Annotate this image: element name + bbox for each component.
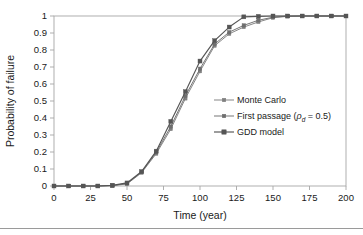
legend-label-1: Monte Carlo bbox=[237, 95, 286, 105]
x-tick-label: 25 bbox=[85, 192, 96, 203]
series-marker bbox=[329, 14, 333, 18]
series-line bbox=[54, 16, 346, 186]
x-tick-label: 100 bbox=[192, 192, 208, 203]
series-line bbox=[54, 16, 346, 186]
data-series-layer bbox=[52, 14, 348, 188]
legend-label-2: First passage (ρd = 0.5) bbox=[237, 111, 331, 123]
x-tick-label: 125 bbox=[229, 192, 245, 203]
series-marker bbox=[257, 19, 260, 22]
series-marker bbox=[344, 14, 348, 18]
series-marker bbox=[154, 149, 158, 153]
plot-frame bbox=[54, 16, 346, 186]
series-marker bbox=[228, 30, 231, 33]
y-tick-label: 0.2 bbox=[34, 146, 47, 157]
series-marker bbox=[256, 14, 260, 18]
series-marker bbox=[213, 39, 217, 43]
series-marker bbox=[125, 181, 129, 185]
series-marker bbox=[242, 15, 246, 19]
y-tick-label: 0.1 bbox=[34, 163, 47, 174]
y-tick-label: 0.8 bbox=[34, 44, 47, 55]
series-marker bbox=[242, 24, 245, 27]
series-marker bbox=[52, 184, 56, 188]
series-marker bbox=[140, 170, 144, 174]
y-tick-label: 0.3 bbox=[34, 129, 47, 140]
x-tick-label: 200 bbox=[338, 192, 354, 203]
x-axis-ticks: 0255075100125150175200 bbox=[51, 186, 354, 203]
series-marker bbox=[286, 14, 290, 18]
x-tick-label: 0 bbox=[51, 192, 56, 203]
chart-figure: 00.10.20.30.40.50.60.70.80.91 0255075100… bbox=[0, 0, 363, 235]
probability-of-failure-chart: 00.10.20.30.40.50.60.70.80.91 0255075100… bbox=[0, 0, 363, 226]
series-marker bbox=[169, 119, 173, 123]
series-marker bbox=[198, 67, 201, 70]
series-marker bbox=[227, 25, 231, 29]
series-marker bbox=[81, 184, 85, 188]
y-tick-label: 0.7 bbox=[34, 61, 47, 72]
series-line bbox=[54, 16, 346, 186]
series-marker bbox=[183, 90, 187, 94]
series-marker bbox=[110, 183, 114, 187]
chart-legend: Monte CarloFirst passage (ρd = 0.5)GDD m… bbox=[214, 95, 331, 137]
legend-label-3: GDD model bbox=[237, 127, 284, 137]
y-axis-ticks: 00.10.20.30.40.50.60.70.80.91 bbox=[34, 10, 54, 191]
y-tick-label: 0.5 bbox=[34, 95, 47, 106]
series-marker bbox=[300, 14, 304, 18]
series-marker bbox=[315, 14, 319, 18]
x-tick-label: 50 bbox=[122, 192, 133, 203]
y-tick-label: 1 bbox=[42, 10, 47, 21]
y-tick-label: 0.4 bbox=[34, 112, 47, 123]
series-3 bbox=[52, 14, 348, 188]
series-1 bbox=[52, 14, 347, 187]
x-tick-label: 175 bbox=[302, 192, 318, 203]
y-tick-label: 0.6 bbox=[34, 78, 47, 89]
footer-divider bbox=[0, 228, 363, 229]
series-marker bbox=[198, 59, 202, 63]
series-marker bbox=[96, 184, 100, 188]
x-axis-title: Time (year) bbox=[173, 209, 226, 221]
series-2 bbox=[52, 14, 347, 187]
legend-marker bbox=[222, 130, 226, 134]
series-marker bbox=[169, 125, 172, 128]
x-tick-label: 150 bbox=[265, 192, 281, 203]
series-marker bbox=[271, 14, 275, 18]
y-tick-label: 0.9 bbox=[34, 27, 47, 38]
y-axis-title: Probability of failure bbox=[4, 55, 16, 147]
x-tick-label: 75 bbox=[158, 192, 169, 203]
legend-marker bbox=[222, 114, 226, 118]
series-marker bbox=[67, 184, 71, 188]
y-tick-label: 0 bbox=[42, 180, 47, 191]
legend-marker bbox=[222, 98, 226, 102]
